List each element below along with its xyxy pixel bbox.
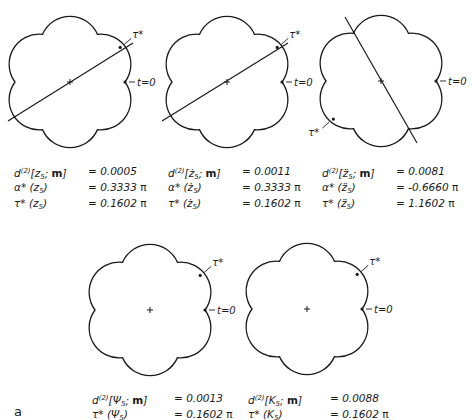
tau-star-label: τ* (132, 29, 143, 40)
t0-label: t=0 (217, 305, 236, 316)
t0-label: t=0 (374, 304, 393, 315)
stat-row: d(2)[ż5; m]= 0.0011 (168, 163, 221, 179)
symmetry-axis-line (345, 17, 417, 143)
panel-z5_ddot: t=0τ* (308, 15, 466, 146)
stat-value: = 0.1602 π (242, 195, 301, 211)
tau-star-leader-line (322, 122, 329, 128)
tau-star-point-marker (276, 46, 279, 49)
t0-point-marker (280, 80, 283, 83)
stat-value: = 0.3333 π (242, 179, 301, 195)
stat-value: = 0.0011 (242, 163, 291, 179)
stat-value: = 0.0081 (396, 163, 445, 179)
stat-label: τ* (z̈5) (322, 195, 355, 215)
symmetry-axis-line (162, 43, 288, 121)
tau-star-leader-line (204, 266, 211, 272)
tau-star-label: τ* (369, 256, 380, 267)
stat-row: d(2)[K5; m]= 0.0088 (248, 390, 302, 406)
stat-value: = 0.0005 (88, 163, 137, 179)
stat-row: τ* (z5)= 0.1602 π (14, 195, 67, 211)
stat-row: α* (z5)= 0.3333 π (14, 179, 67, 195)
stat-row: τ* (ż5)= 0.1602 π (168, 195, 221, 211)
t0-point-marker (123, 80, 126, 83)
stat-value: = 0.1602 π (330, 406, 389, 420)
tau-star-point-marker (332, 117, 335, 120)
stat-label: τ* (z5) (14, 195, 47, 215)
center-cross-icon (304, 306, 310, 312)
stat-value: = 1.1602 π (396, 195, 455, 211)
stat-value: = 0.1602 π (174, 406, 233, 420)
stats-block-K5: d(2)[K5; m]= 0.0088τ* (K5)= 0.1602 π (248, 390, 302, 420)
stats-block-z5_ddot: d(2)[z̈5; m]= 0.0081α* (z̈5)= -0.6660 πτ… (322, 163, 375, 211)
tau-star-label: τ* (308, 127, 319, 138)
stat-row: τ* (Ψ5)= 0.1602 π (92, 406, 147, 420)
stat-label: τ* (Ψ5) (92, 406, 128, 420)
tau-star-leader-line (124, 38, 131, 44)
t0-label: t=0 (294, 77, 313, 88)
t0-label: t=0 (448, 76, 467, 87)
center-cross-icon (147, 307, 153, 313)
stat-row: τ* (K5)= 0.1602 π (248, 406, 302, 420)
tau-star-leader-line (361, 265, 368, 271)
stat-value: = -0.6660 π (396, 179, 458, 195)
stat-label: τ* (ż5) (168, 195, 201, 215)
stat-value: = 0.1602 π (88, 195, 147, 211)
t0-point-marker (203, 308, 206, 311)
tau-star-point-marker (199, 274, 202, 277)
tau-star-label: τ* (212, 257, 223, 268)
stat-row: d(2)[Ψ5; m]= 0.0013 (92, 390, 147, 406)
stat-value: = 0.3333 π (88, 179, 147, 195)
stat-value: = 0.0013 (174, 390, 223, 406)
stat-row: τ* (z̈5)= 1.1602 π (322, 195, 375, 211)
panel-z5_dot: t=0τ* (162, 16, 313, 147)
t0-point-marker (434, 79, 437, 82)
tau-star-label: τ* (289, 29, 300, 40)
stats-block-z5: d(2)[z5; m]= 0.0005α* (z5)= 0.3333 πτ* (… (14, 163, 67, 211)
t0-point-marker (360, 307, 363, 310)
stat-row: d(2)[z̈5; m]= 0.0081 (322, 163, 375, 179)
stats-block-z5_dot: d(2)[ż5; m]= 0.0011α* (ż5)= 0.3333 πτ* (… (168, 163, 221, 211)
panel-K5: t=0τ* (246, 243, 393, 374)
stat-row: α* (ż5)= 0.3333 π (168, 179, 221, 195)
figure-label: a (14, 404, 22, 419)
stat-value: = 0.0088 (330, 390, 379, 406)
panel-psi5: t=0τ* (89, 244, 236, 375)
t0-label: t=0 (137, 77, 156, 88)
stats-block-psi5: d(2)[Ψ5; m]= 0.0013τ* (Ψ5)= 0.1602 π (92, 390, 147, 420)
stat-row: α* (z̈5)= -0.6660 π (322, 179, 375, 195)
symmetry-axis-line (8, 43, 133, 121)
tau-star-point-marker (356, 273, 359, 276)
tau-star-point-marker (119, 46, 122, 49)
stat-row: d(2)[z5; m]= 0.0005 (14, 163, 67, 179)
stat-label: τ* (K5) (248, 406, 282, 420)
panel-z5: t=0τ* (8, 16, 156, 147)
